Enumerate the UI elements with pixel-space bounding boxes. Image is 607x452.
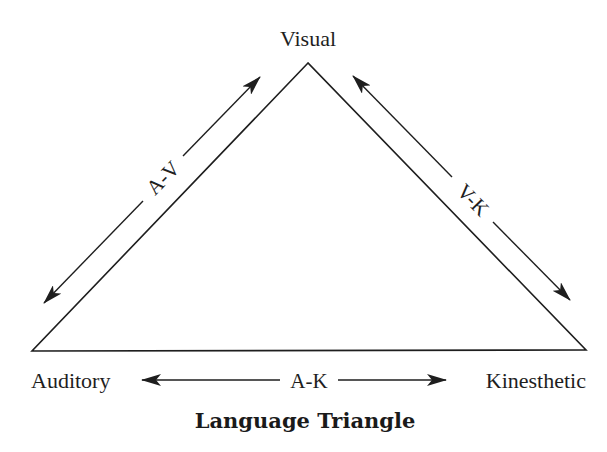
edge-vk-label: V-K <box>452 179 494 221</box>
arrowhead-up-left-icon <box>353 76 452 177</box>
edge-av-label: A-V <box>141 156 184 200</box>
edge-av-arrow: A-V <box>44 77 260 303</box>
edge-vk-arrow: V-K <box>353 76 570 300</box>
triangle-shape <box>32 63 586 351</box>
edge-ak-label: A-K <box>290 369 327 393</box>
node-kinesthetic-label: Kinesthetic <box>486 368 586 393</box>
node-auditory-label: Auditory <box>31 368 110 393</box>
diagram-title: Language Triangle <box>195 408 416 433</box>
edge-ak-arrow: A-K <box>142 369 446 393</box>
node-visual-label: Visual <box>280 26 336 51</box>
arrowhead-down-right-icon <box>493 222 570 300</box>
language-triangle-diagram: Visual Auditory Kinesthetic A-V V-K A-K … <box>0 0 607 452</box>
arrowhead-up-right-icon <box>183 77 260 156</box>
